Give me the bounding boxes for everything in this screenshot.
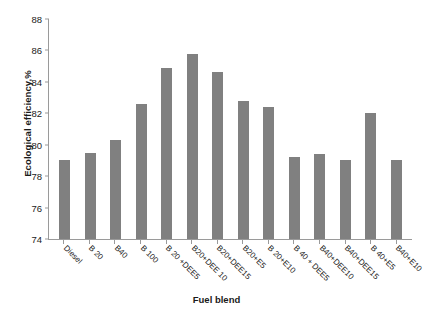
bar-series <box>49 19 412 239</box>
bar-slot <box>129 19 155 239</box>
y-tick-label: 78 <box>22 171 42 182</box>
y-axis-tick: 74 <box>22 234 49 245</box>
y-tick-label: 74 <box>22 234 42 245</box>
bar <box>212 72 223 239</box>
x-tick-mark <box>217 240 218 244</box>
x-tick-mark <box>345 240 346 244</box>
y-axis-tick: 82 <box>22 108 49 119</box>
bar <box>365 113 376 239</box>
ecological-efficiency-bar-chart: Ecological efficiency,% 88 86 84 82 80 7… <box>0 0 433 317</box>
x-tick-mark <box>370 240 371 244</box>
bar-slot <box>282 19 308 239</box>
bar-slot <box>358 19 384 239</box>
x-tick-mark <box>89 240 90 244</box>
bar <box>136 104 147 239</box>
bar-slot <box>103 19 129 239</box>
bar <box>263 107 274 239</box>
y-tick-label: 82 <box>22 108 42 119</box>
bar <box>289 157 300 239</box>
bar <box>161 68 172 239</box>
bar <box>340 160 351 239</box>
x-axis-title: Fuel blend <box>0 294 433 305</box>
y-tick-label: 88 <box>22 14 42 25</box>
y-tick-label: 86 <box>22 45 42 56</box>
bar-slot <box>333 19 359 239</box>
bar-slot <box>256 19 282 239</box>
plot-area: 88 86 84 82 80 78 76 74 <box>48 19 412 240</box>
x-tick-mark <box>293 240 294 244</box>
bar <box>238 101 249 239</box>
bar-slot <box>384 19 410 239</box>
y-axis-tick: 86 <box>22 45 49 56</box>
bar-slot <box>154 19 180 239</box>
bar-slot <box>52 19 78 239</box>
x-tick-mark <box>242 240 243 244</box>
x-tick-mark <box>166 240 167 244</box>
y-axis-title: Ecological efficiency,% <box>22 39 33 209</box>
x-tick-mark <box>396 240 397 244</box>
bar <box>59 160 70 239</box>
y-axis-tick: 78 <box>22 171 49 182</box>
y-axis-tick: 76 <box>22 202 49 213</box>
bar <box>391 160 402 239</box>
y-tick-label: 76 <box>22 202 42 213</box>
x-tick-mark <box>319 240 320 244</box>
x-tick-mark <box>268 240 269 244</box>
y-axis-tick: 80 <box>22 139 49 150</box>
bar <box>85 153 96 239</box>
x-tick-label: B40+E10 <box>394 244 424 274</box>
y-tick-label: 80 <box>22 139 42 150</box>
bar-slot <box>231 19 257 239</box>
x-tick-mark <box>140 240 141 244</box>
bar-slot <box>307 19 333 239</box>
x-tick-mark <box>114 240 115 244</box>
x-tick-mark <box>191 240 192 244</box>
y-axis-tick: 84 <box>22 76 49 87</box>
y-tick-label: 84 <box>22 76 42 87</box>
bar <box>314 154 325 239</box>
bar-slot <box>180 19 206 239</box>
bar <box>110 140 121 239</box>
bar-slot <box>205 19 231 239</box>
bar-slot <box>78 19 104 239</box>
bar <box>187 54 198 239</box>
x-tick-mark <box>63 240 64 244</box>
y-axis-tick: 88 <box>22 14 49 25</box>
